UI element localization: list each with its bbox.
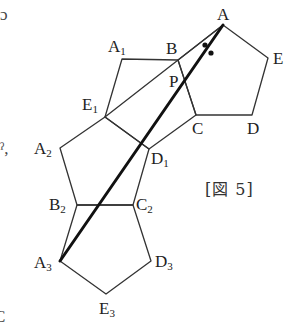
vertex-subscript: 2 — [60, 203, 66, 215]
vertex-label-E1: E1 — [82, 96, 98, 115]
vertex-subscript: 3 — [46, 261, 52, 273]
vertex-label-D1: D1 — [151, 150, 169, 169]
vertex-label-D: D — [247, 120, 259, 137]
vertex-subscript: 2 — [147, 203, 153, 215]
vertex-subscript: 1 — [163, 157, 169, 169]
vertex-label-A: A — [217, 6, 229, 23]
vertex-letter: D — [151, 149, 163, 168]
vertex-letter: D — [155, 252, 167, 271]
angle-mark-dot — [202, 42, 207, 47]
vertex-subscript: 1 — [120, 45, 126, 57]
vertex-letter: A — [217, 5, 229, 24]
vertex-label-D3: D3 — [155, 253, 173, 272]
vertex-letter: P — [169, 72, 178, 91]
vertex-subscript: 1 — [92, 103, 98, 115]
vertex-label-A2: A2 — [34, 140, 52, 159]
vertex-label-C2: C2 — [136, 196, 153, 215]
vertex-letter: C — [192, 119, 203, 138]
vertex-letter: E — [273, 49, 283, 68]
margin-text-fragment: C — [0, 308, 5, 325]
vertex-letter: A — [34, 253, 46, 272]
pentagon-A2B2C2D1E1 — [60, 117, 149, 205]
vertex-letter: B — [49, 195, 60, 214]
vertex-letter: A — [108, 37, 120, 56]
vertex-label-E: E — [273, 50, 283, 67]
pentagon-A3B2C2D3E3 — [60, 205, 151, 294]
diagram-canvas — [0, 0, 288, 332]
vertex-label-B: B — [166, 40, 177, 57]
vertex-letter: D — [247, 119, 259, 138]
pentagon-diagram: ABPECDA1E1D1A2B2C2A3D3E3 [図 5] — [0, 0, 288, 332]
vertex-label-E3: E3 — [99, 300, 115, 319]
vertex-label-A1: A1 — [108, 38, 126, 57]
pentagon-A1BCD1E1 — [105, 59, 196, 149]
vertex-letter: E — [82, 95, 92, 114]
vertex-letter: E — [99, 299, 109, 318]
margin-text-fragment: ɔ — [0, 6, 8, 23]
vertex-subscript: 3 — [109, 307, 115, 319]
diagonal-segments — [60, 25, 223, 261]
vertex-subscript: 3 — [167, 260, 173, 272]
figure-caption: [図 5] — [205, 176, 254, 200]
vertex-label-C: C — [192, 120, 203, 137]
segment-A-A3 — [60, 25, 223, 261]
margin-text-fragment: ˀ, — [0, 140, 8, 157]
vertex-label-B2: B2 — [49, 196, 66, 215]
vertex-label-P: P — [169, 73, 178, 90]
vertex-letter: B — [166, 39, 177, 58]
vertex-label-A3: A3 — [34, 254, 52, 273]
angle-mark-dot — [208, 50, 213, 55]
vertex-letter: C — [136, 195, 147, 214]
vertex-subscript: 2 — [46, 147, 52, 159]
vertex-letter: A — [34, 139, 46, 158]
